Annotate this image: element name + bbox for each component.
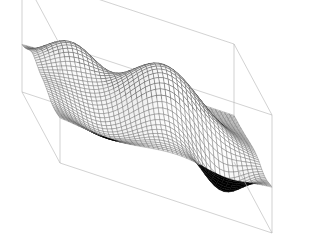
surface-plot-figure	[0, 0, 325, 245]
surface-plot-canvas	[0, 0, 325, 245]
